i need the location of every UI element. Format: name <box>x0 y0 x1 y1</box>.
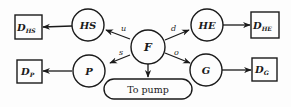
node-g: G <box>190 54 222 86</box>
edge-label-d: d <box>171 24 176 33</box>
node-he-label: HE <box>197 20 215 31</box>
edge-label-u: u <box>121 24 126 33</box>
box-dhe-main: D <box>252 20 262 31</box>
box-dhs-main: D <box>16 22 26 33</box>
pump-label: To pump <box>127 84 169 95</box>
node-g-label: G <box>202 65 211 76</box>
pump-terminal: To pump <box>104 79 192 99</box>
node-he: HE <box>191 9 223 41</box>
box-dhe: DHE <box>251 12 279 38</box>
box-dp: DP <box>17 60 42 83</box>
diagram-canvas: u s d o F HS HE P G DHS DP DHE <box>0 0 291 107</box>
box-dg: DG <box>252 58 277 81</box>
box-dhs-sub: HS <box>25 27 37 34</box>
edge-label-o: o <box>174 48 179 57</box>
box-dg-sub: G <box>264 69 269 76</box>
edge-label-s: s <box>119 48 123 57</box>
node-p-label: P <box>84 66 93 77</box>
node-hs: HS <box>72 9 104 41</box>
edge-hs-dhs <box>43 26 72 27</box>
box-dp-main: D <box>20 66 30 77</box>
node-f-label: F <box>143 41 153 54</box>
box-dhs: DHS <box>15 15 42 39</box>
edge-f-he <box>165 30 189 40</box>
node-p: P <box>73 55 105 87</box>
box-dhe-sub: HE <box>261 25 273 32</box>
box-dg-main: D <box>254 64 264 75</box>
node-f: F <box>131 30 165 64</box>
box-dp-sub: P <box>29 71 35 78</box>
edge-f-hs <box>106 30 130 39</box>
flow-diagram: u s d o F HS HE P G DHS DP DHE <box>0 0 291 107</box>
node-hs-label: HS <box>79 20 97 31</box>
